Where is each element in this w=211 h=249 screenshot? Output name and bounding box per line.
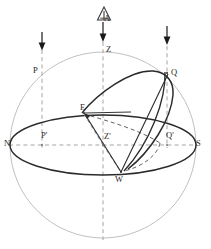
chord-w-to-e-solid [86, 116, 121, 172]
label-A: A [104, 14, 110, 23]
point-marker-w [120, 171, 122, 173]
label-P: P [33, 66, 38, 75]
incoming-ray-arrow-center-icon [100, 22, 107, 42]
chord-e-horizontal-solid [85, 112, 131, 113]
label-E: E [80, 103, 85, 112]
point-marker-q [166, 72, 168, 74]
point-marker-e [83, 112, 85, 114]
point-marker-pprime [41, 144, 43, 146]
label-N: N [4, 139, 10, 148]
label-P-prime: P' [41, 131, 47, 140]
sphere-diagram-svg [0, 0, 211, 249]
label-Q-prime: Q' [166, 131, 174, 140]
label-Z: Z [106, 45, 111, 54]
point-marker-qprime [166, 144, 168, 146]
label-Q: Q [171, 68, 177, 77]
label-S: S [196, 139, 201, 148]
label-Z-prime: Z' [104, 132, 111, 141]
point-marker-zprime [102, 144, 104, 146]
figure-container: A Z P Q E N P' Z' Q' S W [0, 0, 211, 249]
chord-w-to-q-solid [121, 74, 168, 172]
incoming-ray-arrow-right-icon [164, 26, 171, 45]
label-W: W [115, 175, 123, 184]
incoming-ray-arrow-left-icon [39, 32, 46, 51]
